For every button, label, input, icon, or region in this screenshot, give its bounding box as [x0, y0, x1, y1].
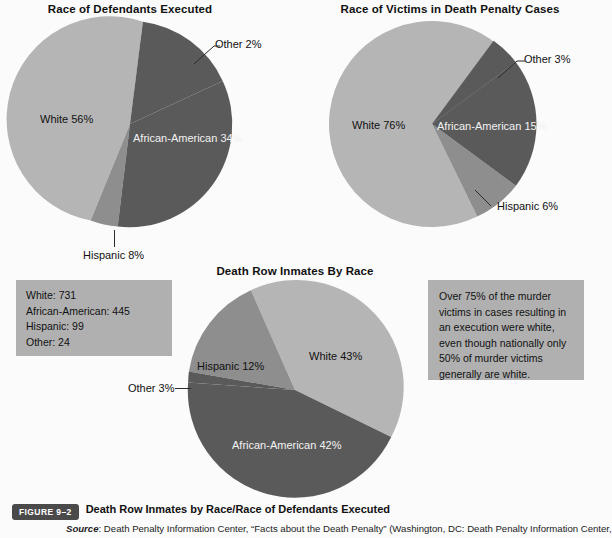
figure-title: Death Row Inmates by Race/Race of Defend…: [86, 503, 390, 515]
leader-line-hispanic-1: [114, 230, 115, 247]
pie-label-other-2: Other 3%: [524, 53, 570, 65]
counts-box: White: 731 African-American: 445 Hispani…: [16, 280, 172, 356]
chart-title-victims: Race of Victims in Death Penalty Cases: [325, 3, 575, 15]
pie-label-other-3: Other 3%: [128, 382, 174, 394]
leader-line-other-1: [192, 40, 220, 66]
counts-row-hispanic: Hispanic: 99: [26, 319, 162, 335]
pie-svg-death-row: [184, 282, 406, 498]
figure-source: Source: Death Penalty Information Center…: [66, 523, 587, 534]
source-text: : Death Penalty Information Center, “Fac…: [99, 523, 612, 534]
source-label: Source: [66, 523, 99, 534]
leader-line-other-2: [496, 56, 526, 82]
callout-line-4: even though nationally only: [439, 336, 573, 352]
pie-label-white-3: White 43%: [309, 350, 362, 362]
callout-line-1: Over 75% of the murder: [439, 289, 573, 305]
pie-label-hispanic-2: Hispanic 6%: [497, 200, 558, 212]
callout-line-6: generally are white.: [439, 367, 573, 383]
counts-row-white: White: 731: [26, 288, 162, 304]
callout-line-5: 50% of murder victims: [439, 351, 573, 367]
callout-line-3: an execution were white,: [439, 320, 573, 336]
counts-row-african-american: African-American: 445: [26, 304, 162, 320]
pie-chart-death-row-inmates: [184, 282, 406, 498]
leader-line-hispanic-2: [473, 188, 499, 210]
callout-box: Over 75% of the murder victims in cases …: [428, 280, 584, 380]
pie-label-african-american-1: African-American 34%: [133, 132, 242, 144]
pie-label-other-1: Other 2%: [215, 38, 261, 50]
counts-row-other: Other: 24: [26, 335, 162, 351]
pie-label-african-american-2: African-American 15%: [437, 120, 546, 132]
pie-label-hispanic-3: Hispanic 12%: [197, 360, 264, 372]
figure-number-badge: FIGURE 9–2: [12, 504, 79, 520]
chart-title-defendants: Race of Defendants Executed: [30, 3, 230, 15]
pie-label-hispanic-1: Hispanic 8%: [83, 249, 144, 261]
pie-label-white-2: White 76%: [352, 119, 405, 131]
pie-label-white-1: White 56%: [40, 113, 93, 125]
pie-label-african-american-3: African-American 42%: [232, 439, 341, 451]
callout-line-2: victims in cases resulting in: [439, 305, 573, 321]
figure-caption: FIGURE 9–2 Death Row Inmates by Race/Rac…: [12, 503, 587, 534]
leader-line-other-3: [175, 388, 191, 389]
chart-title-death-row: Death Row Inmates By Race: [200, 265, 390, 277]
